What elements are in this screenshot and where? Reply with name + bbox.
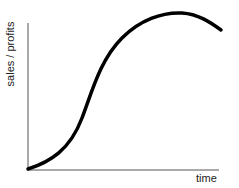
sales-curve	[28, 13, 221, 169]
y-axis-label: sales / profits	[2, 20, 16, 90]
x-axis-label: time	[196, 172, 217, 184]
lifecycle-chart	[0, 0, 239, 188]
y-axis-label-text: sales / profits	[4, 18, 16, 90]
